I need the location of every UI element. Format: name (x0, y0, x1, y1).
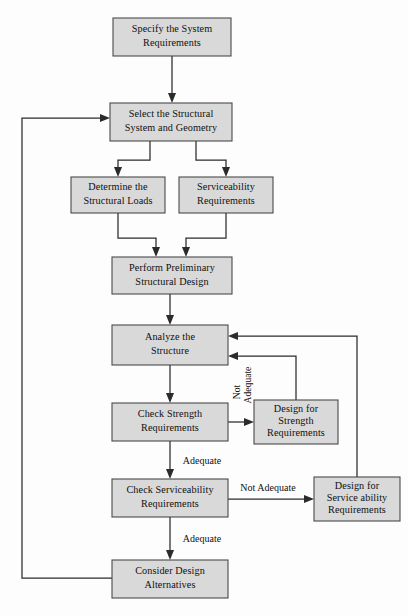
node-check-serviceability-requirements[interactable]: Check Serviceability Requirements (112, 479, 228, 517)
node-label-determine-line2: Structural Loads (83, 195, 152, 206)
node-determine-structural-loads[interactable]: Determine the Structural Loads (71, 177, 165, 213)
node-label-design-strength-line3: Requirements (267, 427, 325, 438)
arrowhead-design-strength-to-analyze (228, 352, 238, 360)
node-label-design-service-line1: Design for (335, 480, 380, 491)
arrowhead-check-serviceability-to-consider (166, 550, 174, 560)
edge-labels-layer: Not Adequate Adequate Not Adequate Adequ… (183, 367, 296, 545)
arrowhead-design-service-to-analyze (228, 332, 238, 340)
node-label-serviceability-line1: Serviceability (197, 181, 256, 192)
arrowhead-determine-to-perform (152, 247, 160, 257)
arrowhead-perform-to-analyze (166, 315, 174, 325)
arrowhead-consider-to-select-feedback (100, 114, 110, 122)
node-select-structural-system[interactable]: Select the Structural System and Geometr… (110, 103, 232, 141)
node-consider-design-alternatives[interactable]: Consider Design Alternatives (112, 560, 228, 598)
node-label-serviceability-line2: Requirements (197, 195, 255, 206)
node-label-specify-line2: Requirements (143, 37, 201, 48)
node-serviceability-requirements[interactable]: Serviceability Requirements (179, 177, 273, 213)
edge-label-strength-not: Not (231, 384, 242, 399)
node-label-check-serviceability-line1: Check Serviceability (126, 484, 214, 495)
node-label-perform-line1: Perform Preliminary (129, 262, 216, 273)
node-label-check-strength-line1: Check Strength (138, 408, 203, 419)
arrowhead-analyze-to-check-strength (166, 393, 174, 403)
node-label-check-strength-line2: Requirements (141, 422, 199, 433)
flowchart-diagram: Not Adequate Adequate Not Adequate Adequ… (0, 0, 408, 616)
node-design-for-service-ability[interactable]: Design for Service ability Requirements (314, 477, 400, 521)
edge-select-to-serviceability (196, 141, 226, 171)
edge-select-to-determine (118, 141, 150, 171)
edge-label-strength-adequate-word: Adequate (242, 367, 253, 404)
node-label-select-line1: Select the Structural (129, 108, 214, 119)
node-label-check-serviceability-line2: Requirements (141, 498, 199, 509)
edge-label-not-adequate-serviceability: Not Adequate (240, 482, 296, 493)
node-label-analyze-line1: Analyze the (145, 331, 195, 342)
flowchart-canvas: Not Adequate Adequate Not Adequate Adequ… (0, 0, 408, 616)
node-label-perform-line2: Structural Design (135, 276, 208, 287)
node-label-consider-line2: Alternatives (145, 579, 196, 590)
arrowhead-serviceability-to-perform (182, 247, 190, 257)
edge-label-adequate-strength: Adequate (183, 455, 222, 466)
edge-determine-to-perform (118, 213, 156, 251)
edge-label-adequate-serviceability: Adequate (183, 533, 222, 544)
node-perform-preliminary-design[interactable]: Perform Preliminary Structural Design (112, 257, 232, 294)
node-design-for-strength[interactable]: Design for Strength Requirements (254, 400, 338, 444)
node-check-strength-requirements[interactable]: Check Strength Requirements (112, 403, 228, 441)
arrowhead-specify-to-select (168, 93, 176, 103)
arrowhead-check-strength-to-design-strength (244, 418, 254, 426)
node-label-select-line2: System and Geometry (125, 122, 218, 133)
arrowhead-check-strength-to-check-serviceability (166, 469, 174, 479)
node-analyze-structure[interactable]: Analyze the Structure (112, 325, 228, 365)
node-label-design-strength-line1: Design for (274, 403, 319, 414)
node-label-determine-line1: Determine the (88, 181, 148, 192)
node-label-design-service-line2: Service ability (327, 492, 388, 503)
node-specify-system-requirements[interactable]: Specify the System Requirements (113, 18, 231, 56)
node-label-design-strength-line2: Strength (278, 415, 313, 426)
edge-serviceability-to-perform (186, 213, 226, 251)
node-label-specify-line1: Specify the System (132, 23, 212, 34)
arrowhead-check-serviceability-to-design-service (304, 495, 314, 503)
arrowhead-select-to-serviceability (222, 167, 230, 177)
node-label-consider-line1: Consider Design (135, 565, 205, 576)
arrowhead-select-to-determine (114, 167, 122, 177)
node-label-analyze-line2: Structure (151, 345, 190, 356)
node-label-design-service-line3: Requirements (328, 504, 386, 515)
